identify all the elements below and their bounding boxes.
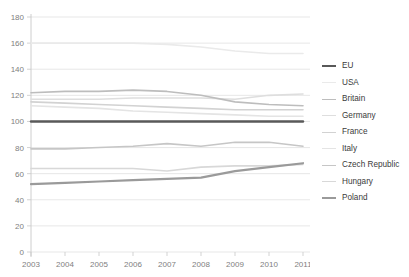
y-axis-tick-label: 20 [15,222,24,231]
legend-item[interactable]: EU [322,58,409,75]
x-axis-tick-label: 2011 [294,260,310,269]
y-axis-tick-label: 60 [15,170,24,179]
legend-item-label: USA [342,79,359,87]
legend-item[interactable]: Hungary [322,174,409,191]
legend-item-label: France [342,128,367,136]
legend-item-label: EU [342,62,353,70]
legend-item[interactable]: Britain [322,91,409,108]
legend-item[interactable]: Germany [322,108,409,125]
legend-item-label: Britain [342,95,365,103]
legend-item-label: Hungary [342,178,373,186]
chart-legend: EUUSABritainGermanyFranceItalyCzech Repu… [322,58,409,207]
legend-item-label: Germany [342,112,376,120]
x-axis-tick-label: 2008 [192,260,210,269]
legend-item[interactable]: Italy [322,141,409,158]
x-axis-tick-label: 2004 [56,260,74,269]
legend-item[interactable]: Poland [322,190,409,207]
y-axis-tick-label: 120 [11,91,25,100]
y-axis-tick-label: 40 [15,196,24,205]
series-line-germany [31,94,303,99]
x-axis-tick-label: 2009 [226,260,244,269]
series-line-usa [31,43,303,53]
legend-item-label: Poland [342,194,368,202]
legend-swatch-icon [322,82,336,83]
line-chart: 0204060801001201401601802003200420052006… [0,0,409,277]
x-axis-tick-label: 2005 [90,260,108,269]
series-line-france [31,102,303,110]
legend-swatch-icon [322,181,336,182]
legend-item[interactable]: Czech Republic [322,157,409,174]
x-axis-tick-label: 2003 [22,260,40,269]
y-axis-tick-label: 0 [20,248,25,257]
plot-svg: 0204060801001201401601802003200420052006… [0,0,310,277]
x-axis-tick-label: 2006 [124,260,142,269]
y-axis-tick-label: 100 [11,117,25,126]
y-axis-tick-label: 80 [15,144,24,153]
x-axis-tick-label: 2010 [260,260,278,269]
legend-swatch-icon [322,132,336,133]
legend-item[interactable]: USA [322,75,409,92]
legend-swatch-icon [322,165,336,166]
legend-swatch-icon [322,148,336,149]
y-axis-tick-label: 140 [11,65,25,74]
legend-item-label: Czech Republic [342,161,399,169]
x-axis-tick-label: 2007 [158,260,176,269]
legend-swatch-icon [322,65,336,67]
legend-swatch-icon [322,99,336,100]
legend-item-label: Italy [342,145,357,153]
y-axis-tick-label: 160 [11,39,25,48]
legend-item[interactable]: France [322,124,409,141]
plot-area: 0204060801001201401601802003200420052006… [0,0,310,277]
legend-swatch-icon [322,115,336,116]
legend-swatch-icon [322,197,336,199]
y-axis-tick-label: 180 [11,13,25,22]
